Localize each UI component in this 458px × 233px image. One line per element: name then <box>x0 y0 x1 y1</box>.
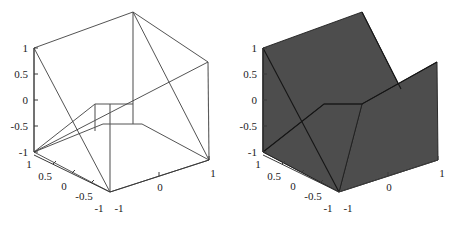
left-x-tick-0: 0 <box>157 181 163 193</box>
right-y-tick-m05: -0.5 <box>304 190 322 202</box>
right-x-tick-1: 1 <box>439 167 445 179</box>
left-y-tick-1: 1 <box>26 158 32 170</box>
right-z-tick-05: 0.5 <box>243 68 257 80</box>
left-surface-wireframe <box>34 12 209 192</box>
left-z-tick-05: 0.5 <box>14 68 28 80</box>
left-tick-labels: 1 0.5 0 -0.5 -1 1 0.5 0 -0.5 -1 -1 0 1 <box>11 42 216 214</box>
right-z-tick-1: 1 <box>252 42 258 54</box>
right-z-tick-m05: -0.5 <box>240 120 258 132</box>
right-y-tick-0: 0 <box>290 180 296 192</box>
left-z-tick-m1: -1 <box>19 146 28 158</box>
figure-container: 1 0.5 0 -0.5 -1 1 0.5 0 -0.5 -1 -1 0 1 <box>0 0 458 233</box>
right-plot-svg: 1 0.5 0 -0.5 -1 1 0.5 0 -0.5 -1 -1 0 1 <box>229 0 458 233</box>
left-y-tick-m05: -0.5 <box>75 190 93 202</box>
left-y-tick-m1: -1 <box>94 202 103 214</box>
right-x-tick-0: 0 <box>386 181 392 193</box>
right-surface-solid <box>263 12 438 192</box>
right-y-tick-m1: -1 <box>323 202 332 214</box>
left-x-tick-1: 1 <box>210 167 216 179</box>
right-plot-panel: 1 0.5 0 -0.5 -1 1 0.5 0 -0.5 -1 -1 0 1 <box>229 0 458 233</box>
left-z-tick-0: 0 <box>23 94 29 106</box>
left-z-tick-1: 1 <box>23 42 29 54</box>
right-y-tick-05: 0.5 <box>267 170 281 182</box>
left-plot-panel: 1 0.5 0 -0.5 -1 1 0.5 0 -0.5 -1 -1 0 1 <box>0 0 229 233</box>
left-z-tick-m05: -0.5 <box>11 120 29 132</box>
right-y-tick-1: 1 <box>255 158 261 170</box>
left-plot-svg: 1 0.5 0 -0.5 -1 1 0.5 0 -0.5 -1 -1 0 1 <box>0 0 229 233</box>
left-y-tick-0: 0 <box>61 180 67 192</box>
left-y-tick-05: 0.5 <box>38 170 52 182</box>
left-axes <box>34 48 209 192</box>
right-z-tick-0: 0 <box>252 94 258 106</box>
right-x-tick-m1: -1 <box>343 202 352 214</box>
left-x-tick-m1: -1 <box>114 202 123 214</box>
right-z-tick-m1: -1 <box>248 146 257 158</box>
